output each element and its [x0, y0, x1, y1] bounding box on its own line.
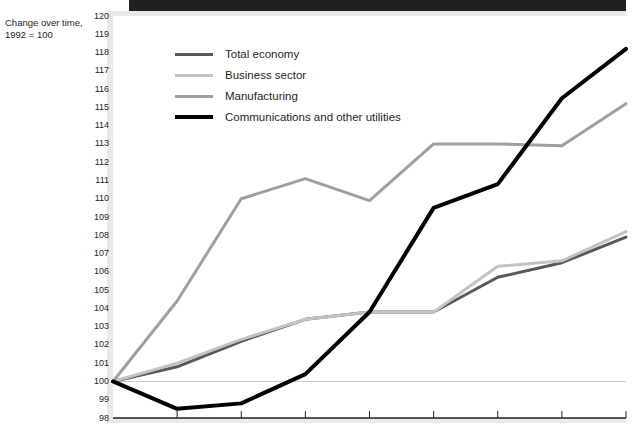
- legend-label: Manufacturing: [225, 87, 298, 106]
- legend-swatch: [175, 53, 213, 56]
- bottom-strip: [0, 423, 634, 434]
- chart-page: Change over time, 1992 = 100 98991001011…: [0, 0, 634, 434]
- legend-swatch: [175, 115, 213, 119]
- legend-swatch: [175, 74, 213, 77]
- legend-item: Business sector: [175, 66, 475, 87]
- legend-label: Business sector: [225, 66, 306, 85]
- legend-label: Communications and other utilities: [225, 108, 401, 127]
- legend-label: Total economy: [225, 45, 299, 64]
- legend-swatch: [175, 95, 213, 98]
- legend-item: Communications and other utilities: [175, 108, 475, 129]
- legend-item: Total economy: [175, 45, 475, 66]
- series-line-1: [113, 232, 626, 382]
- legend-item: Manufacturing: [175, 87, 475, 108]
- chart-legend: Total economyBusiness sectorManufacturin…: [175, 45, 475, 129]
- series-line-2: [113, 104, 626, 382]
